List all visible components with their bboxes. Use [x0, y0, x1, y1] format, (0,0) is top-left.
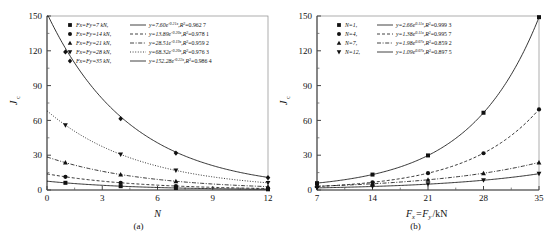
legend-series-name-1: N=4,: [344, 31, 358, 37]
data-point-0-2: [426, 153, 430, 157]
y-tick-label: 90: [303, 81, 313, 91]
legend-marker-glyph-4: [68, 59, 72, 64]
x-tick-label: 7: [315, 193, 320, 203]
legend-marker-glyph-1: [337, 32, 341, 36]
data-point-1-3: [481, 151, 485, 155]
y-tick-label: 0: [38, 185, 43, 195]
data-point-1-4: [537, 107, 541, 111]
legend-equation-0: y=2.66e0.11x,R2=0.999 3: [395, 21, 451, 29]
legend-equation-1: y=1.38e0.11x,R2=0.995 7: [395, 30, 451, 37]
y-tick-label: 60: [303, 116, 313, 126]
legend-series-name-2: N=7,: [344, 40, 358, 46]
legend-marker-3: [337, 50, 342, 54]
panel-b: 0306090120150714212835JcFx=Fy/kNN=1,y=2.…: [277, 0, 554, 240]
y-axis-label-text: J: [278, 99, 289, 105]
y-axis-label-sub: c: [284, 96, 291, 99]
x-tick-label: 14: [368, 193, 378, 203]
data-point-4-1: [118, 116, 123, 121]
legend-marker-glyph-2: [68, 41, 73, 45]
data-point-3-3: [266, 181, 271, 185]
y-tick-label: 120: [299, 46, 313, 56]
panel-a-caption: (a): [0, 221, 277, 231]
x-tick-label: 12: [264, 193, 273, 203]
data-point-1-0: [63, 175, 67, 179]
x-tick-label: 28: [479, 193, 489, 203]
data-point-0-3: [482, 111, 486, 115]
figure-root: 0306090120150036912JcNFx=Fy=7 kN,y=7.60e…: [0, 0, 554, 240]
panel-a-plot: 0306090120150036912JcNFx=Fy=7 kN,y=7.60e…: [0, 0, 277, 240]
y-axis-label: Jc: [8, 96, 21, 105]
x-axis-label: N: [153, 208, 162, 219]
data-point-2-3: [481, 171, 486, 175]
x-axis-label-fx-sub: x: [411, 213, 415, 220]
x-axis-label-fy-sub: y: [428, 213, 432, 220]
y-tick-label: 120: [29, 46, 43, 56]
y-tick-label: 0: [308, 185, 313, 195]
legend-marker-2: [68, 41, 73, 45]
legend-marker-glyph-0: [337, 23, 341, 27]
x-axis-label: Fx=Fy/kN: [405, 208, 448, 220]
legend-marker-glyph-1: [68, 32, 72, 36]
data-point-1-2: [426, 171, 430, 175]
data-point-1-2: [174, 184, 178, 188]
x-tick-label: 35: [535, 193, 545, 203]
x-tick-label: 9: [211, 193, 216, 203]
legend-equation-3: y=68.32e-0.20x,R2=0.976 3: [148, 48, 209, 56]
data-point-0-0: [63, 181, 67, 185]
data-point-2-4: [537, 160, 542, 164]
fit-curve-2: [47, 157, 268, 187]
legend-marker-glyph-3: [337, 50, 342, 54]
data-point-1-1: [119, 181, 123, 185]
legend-series-name-1: Fx=Fy=14 kN,: [75, 31, 112, 37]
y-tick-label: 60: [33, 116, 43, 126]
y-tick-label: 150: [29, 11, 43, 21]
data-point-4-3: [266, 175, 271, 180]
x-axis-label-text: N: [153, 208, 162, 219]
x-tick-label: 21: [424, 193, 433, 203]
legend-marker-glyph-0: [68, 23, 72, 27]
y-tick-label: 30: [33, 150, 43, 160]
legend-equation-2: y=28.51e-0.19x,R2=0.959 2: [148, 39, 209, 47]
legend-series-name-3: N=12,: [344, 49, 361, 55]
y-tick-label: 90: [33, 81, 43, 91]
panel-a: 0306090120150036912JcNFx=Fy=7 kN,y=7.60e…: [0, 0, 277, 240]
x-tick-label: 0: [45, 193, 50, 203]
x-axis-label-eq: =F: [416, 208, 430, 219]
legend-equation-2: y=1.98e0.07x,R2=0.859 2: [395, 39, 452, 47]
x-tick-label: 3: [100, 193, 105, 203]
legend-series-name-0: N=1,: [344, 22, 358, 28]
y-axis-label-text: J: [8, 99, 19, 105]
legend-marker-0: [68, 23, 72, 27]
data-point-3-2: [174, 168, 179, 172]
x-axis-label-unit: /kN: [433, 208, 448, 219]
legend-series-name-3: Fx=Fy=28 kN,: [75, 49, 112, 55]
panel-b-plot: 0306090120150714212835JcFx=Fy/kNN=1,y=2.…: [277, 0, 554, 240]
legend-series-name-0: Fx=Fy=7 kN,: [75, 22, 109, 28]
legend-marker-2: [337, 41, 342, 45]
legend-series-name-4: Fx=Fy=35 kN,: [75, 58, 112, 64]
legend-marker-glyph-2: [337, 41, 342, 45]
legend-marker-1: [68, 32, 72, 36]
x-tick-label: 6: [155, 193, 160, 203]
y-axis-label-sub: c: [14, 96, 21, 99]
legend: Fx=Fy=7 kN,y=7.60e-0.21x,R2=0.962 7Fx=Fy…: [68, 21, 212, 65]
legend-equation-3: y=1.09e0.07x,R2=0.897 5: [395, 48, 452, 56]
legend-marker-0: [337, 23, 341, 27]
legend: N=1,y=2.66e0.11x,R2=0.999 3N=4,y=1.38e0.…: [337, 21, 452, 56]
data-point-0-1: [371, 173, 375, 177]
legend-marker-1: [337, 32, 341, 36]
legend-series-name-2: Fx=Fy=21 kN,: [75, 40, 112, 46]
legend-marker-4: [68, 59, 72, 64]
data-point-0-4: [537, 15, 541, 19]
data-point-3-0: [63, 123, 68, 127]
legend-equation-4: y=152.28e-0.22x,R2=0.986 4: [148, 57, 212, 65]
y-tick-label: 150: [299, 11, 313, 21]
y-axis-label: Jc: [278, 96, 291, 105]
legend-equation-1: y=13.89e-0.20x,R2=0.978 1: [148, 30, 209, 37]
y-tick-label: 30: [303, 150, 313, 160]
panel-b-caption: (b): [277, 221, 554, 231]
fit-curve-3: [47, 111, 268, 183]
legend-equation-0: y=7.60e-0.21x,R2=0.962 7: [148, 21, 206, 29]
data-point-3-1: [118, 152, 123, 156]
